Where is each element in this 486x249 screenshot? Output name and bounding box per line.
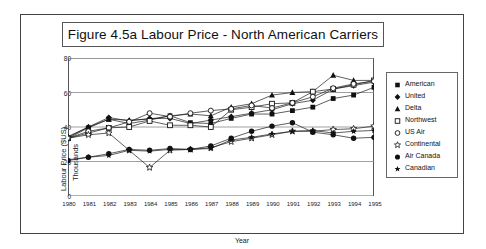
chart-screenshot: Labour Price ($US) Thousands 020406080 1…	[0, 0, 486, 249]
legend-label: United	[404, 92, 425, 99]
legend-item-united[interactable]: United	[391, 89, 454, 101]
filled-circle-marker	[391, 149, 404, 161]
plot-area	[68, 58, 374, 196]
series-continental	[68, 123, 374, 171]
x-axis-title: Year	[21, 237, 463, 244]
figure-title-box: Figure 4.5a Labour Price - North America…	[62, 22, 384, 47]
series-us-air	[68, 79, 374, 141]
legend-item-air-canada[interactable]: Air Canada	[391, 149, 454, 161]
legend-item-us-air[interactable]: US Air	[391, 125, 454, 137]
legend-label: Delta	[404, 104, 421, 111]
legend-label: Canadian	[404, 164, 435, 171]
legend-label: American	[404, 80, 435, 87]
chart-legend: AmericanUnitedDeltaNorthwestUS AirContin…	[386, 72, 458, 178]
open-square-marker	[391, 113, 404, 125]
series-delta	[68, 72, 374, 139]
legend-item-continental[interactable]: Continental	[391, 137, 454, 149]
x-tick-1995: 1995	[363, 201, 387, 207]
legend-item-canadian[interactable]: Canadian	[391, 161, 454, 173]
legend-label: Continental	[404, 140, 440, 147]
open-circle-marker	[391, 125, 404, 137]
legend-label: US Air	[404, 128, 425, 135]
legend-item-northwest[interactable]: Northwest	[391, 113, 454, 125]
chart-canvas	[68, 58, 374, 196]
filled-square-marker	[391, 77, 404, 89]
legend-label: Air Canada	[404, 152, 440, 159]
legend-item-american[interactable]: American	[391, 77, 454, 89]
open-star-marker	[391, 137, 404, 149]
filled-star-marker	[391, 161, 404, 173]
page-title: Figure 4.5a Labour Price - North America…	[68, 27, 378, 42]
filled-diamond-marker	[391, 89, 404, 101]
series-northwest	[68, 78, 374, 141]
legend-item-delta[interactable]: Delta	[391, 101, 454, 113]
filled-triangle-marker	[391, 101, 404, 113]
legend-label: Northwest	[404, 116, 437, 123]
